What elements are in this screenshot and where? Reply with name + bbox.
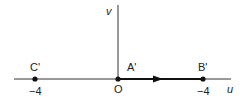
point-b-tick: −4 bbox=[197, 86, 210, 97]
direction-arrow-icon bbox=[153, 76, 163, 83]
point-c bbox=[32, 76, 37, 81]
point-b bbox=[200, 76, 205, 81]
point-c-label: C' bbox=[30, 62, 40, 73]
origin-label: O bbox=[114, 84, 123, 95]
point-a-label: A' bbox=[127, 62, 136, 73]
v-axis-label: v bbox=[106, 6, 112, 17]
point-a bbox=[115, 76, 120, 81]
point-b-label: B' bbox=[198, 62, 207, 73]
u-axis-label: u bbox=[227, 84, 233, 95]
point-c-tick: −4 bbox=[29, 86, 42, 97]
